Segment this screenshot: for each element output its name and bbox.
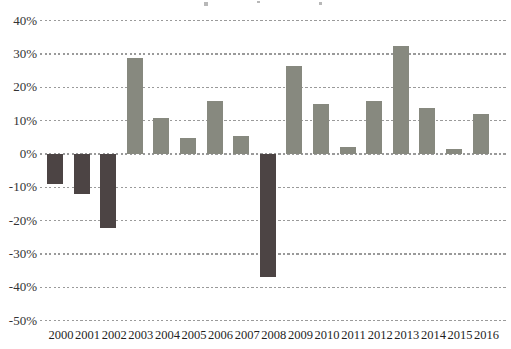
cropped-title-remnant — [204, 2, 208, 6]
annual-returns-bar-chart: 40%30%20%10%0%-10%-20%-30%-40%-50%200020… — [0, 0, 511, 349]
bar-2003 — [127, 58, 143, 154]
gridline — [40, 120, 508, 122]
bar-2015 — [446, 149, 462, 154]
y-axis-tick-label: -40% — [0, 278, 37, 295]
y-axis-tick-label: 20% — [0, 78, 37, 95]
y-axis-tick-label: -10% — [0, 178, 37, 195]
bar-2010 — [313, 104, 329, 154]
bar-2005 — [180, 138, 196, 154]
bar-2011 — [340, 147, 356, 154]
y-axis-tick-label: -50% — [0, 312, 37, 329]
bar-2009 — [286, 66, 302, 154]
y-axis-tick-label: -20% — [0, 212, 37, 229]
bar-2014 — [419, 108, 435, 154]
y-axis-tick-label: 30% — [0, 45, 37, 62]
bar-2007 — [233, 136, 249, 154]
gridline — [40, 53, 508, 55]
bar-2013 — [393, 46, 409, 154]
cropped-title-remnant — [319, 2, 322, 5]
y-axis-tick-label: -30% — [0, 245, 37, 262]
x-axis-tick-label: 2016 — [470, 328, 504, 343]
bar-2008 — [260, 154, 276, 277]
gridline — [40, 20, 508, 22]
gridline — [40, 320, 508, 322]
y-axis-tick-label: 0% — [0, 145, 37, 162]
bar-2000 — [47, 154, 63, 184]
y-axis-tick-label: 40% — [0, 12, 37, 29]
gridline — [40, 287, 508, 289]
y-axis-tick-label: 10% — [0, 112, 37, 129]
bar-2012 — [366, 101, 382, 154]
gridline — [40, 87, 508, 89]
bar-2004 — [153, 118, 169, 154]
bar-2002 — [100, 154, 116, 228]
bar-2006 — [207, 101, 223, 154]
bar-2016 — [473, 114, 489, 154]
cropped-title-remnant — [257, 1, 260, 3]
bar-2001 — [74, 154, 90, 194]
